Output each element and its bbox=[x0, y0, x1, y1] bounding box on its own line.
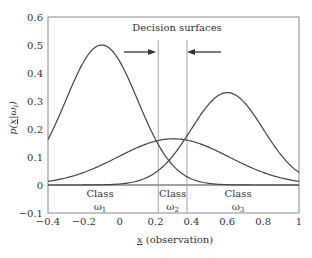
curve-ω2 bbox=[48, 139, 299, 182]
x-tick-label: 0.8 bbox=[255, 216, 271, 227]
x-tick-label: −0.2 bbox=[72, 216, 96, 227]
class-label-3: Classω3 bbox=[225, 188, 252, 214]
density-curves bbox=[48, 45, 299, 185]
annotation-decision-surfaces: Decision surfaces bbox=[132, 22, 221, 33]
y-tick-label: 0.3 bbox=[27, 96, 43, 107]
y-axis-label: p(x|ωi) bbox=[7, 101, 20, 135]
chart: −0.100.10.20.30.40.50.6 −0.4−0.200.20.40… bbox=[0, 0, 312, 258]
x-tick-label: 0.4 bbox=[183, 216, 199, 227]
svg-text:Class: Class bbox=[225, 188, 252, 199]
y-tick-label: 0.6 bbox=[27, 12, 43, 23]
svg-text:ω1: ω1 bbox=[94, 201, 107, 214]
x-tick-label: 0.6 bbox=[219, 216, 235, 227]
class-label-2: Classω2 bbox=[159, 188, 186, 214]
svg-text:p(x|ωi): p(x|ωi) bbox=[7, 101, 20, 135]
x-tick-label: −0.4 bbox=[36, 216, 60, 227]
x-tick-label: 0.2 bbox=[148, 216, 164, 227]
y-tick-label: 0.5 bbox=[27, 40, 43, 51]
svg-text:ω2: ω2 bbox=[166, 201, 179, 214]
y-tick-label: 0 bbox=[37, 180, 43, 191]
svg-text:x (observation): x (observation) bbox=[137, 234, 213, 245]
y-tick-label: 0.4 bbox=[27, 68, 43, 79]
plot-frame bbox=[48, 17, 299, 213]
x-axis-ticks: −0.4−0.200.20.40.60.81 bbox=[36, 216, 302, 227]
curve-ω1 bbox=[48, 45, 299, 185]
svg-text:Class: Class bbox=[86, 188, 113, 199]
x-tick-label: 0 bbox=[117, 216, 123, 227]
arrow-left bbox=[124, 49, 156, 55]
x-axis-label: x (observation) bbox=[137, 234, 213, 245]
y-tick-label: 0.2 bbox=[27, 124, 43, 135]
y-tick-label: 0.1 bbox=[27, 152, 43, 163]
svg-text:ω3: ω3 bbox=[232, 201, 245, 214]
class-region-labels: Classω1Classω2Classω3 bbox=[86, 188, 251, 214]
x-tick-label: 1 bbox=[296, 216, 302, 227]
svg-text:Class: Class bbox=[159, 188, 186, 199]
class-label-1: Classω1 bbox=[86, 188, 113, 214]
y-axis-ticks: −0.100.10.20.30.40.50.6 bbox=[19, 12, 43, 219]
arrow-right bbox=[187, 49, 221, 55]
